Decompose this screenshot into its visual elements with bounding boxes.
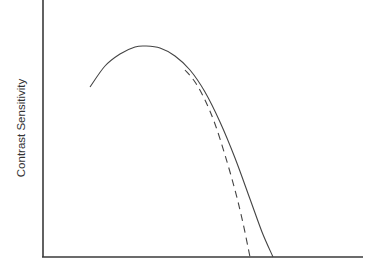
solid-curve [90, 46, 273, 257]
dashed-curve [185, 70, 250, 257]
chart-plot-area [0, 0, 367, 271]
y-axis-label: Contrast Sensitivity [15, 79, 27, 177]
